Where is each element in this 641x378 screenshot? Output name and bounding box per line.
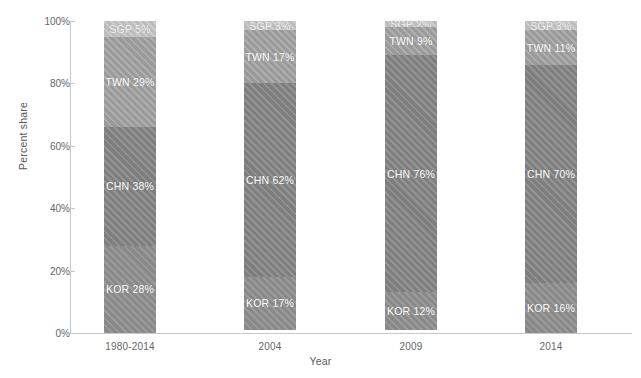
segment-label: TWN 11% — [527, 42, 575, 54]
x-axis-title: Year — [0, 355, 641, 367]
segment-label: KOR 28% — [106, 283, 154, 295]
bar-segment-sgp[interactable]: SGP 3% — [525, 21, 577, 30]
x-axis-line — [70, 333, 632, 334]
y-axis-line — [70, 21, 71, 334]
segment-label: SGP 5% — [109, 23, 150, 35]
y-tick-label: 40% — [30, 203, 70, 214]
y-tick-label: 100% — [30, 16, 70, 27]
bar-1980-2014[interactable]: SGP 5%TWN 29%CHN 38%KOR 28% — [104, 21, 156, 333]
x-tick-label-0: 1980-2014 — [70, 341, 190, 352]
bar-segment-kor[interactable]: KOR 28% — [104, 246, 156, 333]
bar-segment-sgp[interactable]: SGP 5% — [104, 21, 156, 37]
segment-label: TWN 29% — [105, 76, 154, 88]
y-axis-title: Percent share — [17, 71, 29, 201]
y-tick-mark — [70, 146, 75, 147]
x-tick-label-2: 2009 — [351, 341, 471, 352]
bar-segment-kor[interactable]: KOR 17% — [244, 277, 296, 330]
x-tick-label-3: 2014 — [491, 341, 611, 352]
bar-segment-chn[interactable]: CHN 70% — [525, 65, 577, 283]
bar-segment-chn[interactable]: CHN 38% — [104, 127, 156, 246]
y-tick-label: 20% — [30, 265, 70, 276]
segment-label: CHN 38% — [106, 180, 154, 192]
bar-2014[interactable]: SGP 3%TWN 11%CHN 70%KOR 16% — [525, 21, 577, 333]
segment-label: TWN 9% — [389, 35, 432, 47]
bar-2004[interactable]: SGP 3%TWN 17%CHN 62%KOR 17% — [244, 21, 296, 333]
segment-label: KOR 17% — [246, 297, 294, 309]
bar-segment-twn[interactable]: TWN 29% — [104, 37, 156, 127]
segment-label: CHN 76% — [387, 168, 435, 180]
bar-segment-twn[interactable]: TWN 17% — [244, 30, 296, 83]
y-tick-mark — [70, 333, 75, 334]
bar-segment-twn[interactable]: TWN 9% — [385, 27, 437, 55]
bar-segment-twn[interactable]: TWN 11% — [525, 30, 577, 64]
bar-segment-kor[interactable]: KOR 16% — [525, 283, 577, 333]
y-tick-mark — [70, 21, 75, 22]
segment-label: TWN 17% — [245, 51, 294, 63]
bar-2009[interactable]: SGP 2%TWN 9%CHN 76%KOR 12% — [385, 21, 437, 333]
y-tick-label: 60% — [30, 140, 70, 151]
bar-segment-kor[interactable]: KOR 12% — [385, 292, 437, 329]
segment-label: CHN 62% — [246, 174, 294, 186]
segment-label: KOR 12% — [387, 305, 435, 317]
bar-segment-chn[interactable]: CHN 62% — [244, 83, 296, 276]
bar-segment-sgp[interactable]: SGP 3% — [244, 21, 296, 30]
segment-label: KOR 16% — [527, 302, 575, 314]
y-tick-label: 80% — [30, 78, 70, 89]
stacked-bar-chart: Percent share Year 0%20%40%60%80%100% 19… — [0, 0, 641, 378]
y-tick-mark — [70, 208, 75, 209]
bar-segment-chn[interactable]: CHN 76% — [385, 55, 437, 292]
y-tick-mark — [70, 83, 75, 84]
x-tick-label-1: 2004 — [210, 341, 330, 352]
y-tick-mark — [70, 271, 75, 272]
y-tick-label: 0% — [30, 328, 70, 339]
segment-label: CHN 70% — [527, 168, 575, 180]
